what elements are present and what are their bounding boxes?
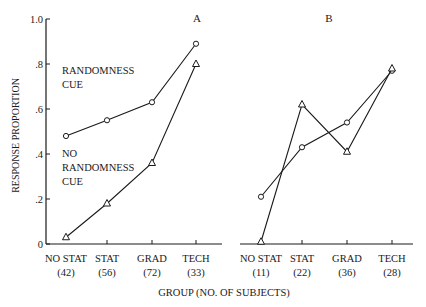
- circle-marker: [258, 194, 263, 199]
- y-tick-label: 0: [38, 239, 43, 250]
- x-tick-label: TECH: [378, 253, 406, 264]
- series-annotation: RANDOMNESS: [62, 65, 135, 76]
- circle-marker: [344, 120, 349, 125]
- triangle-marker: [299, 101, 306, 108]
- x-tick-label: NO STAT: [45, 253, 88, 264]
- y-tick-label: 1.0: [30, 14, 43, 25]
- x-tick-count: (28): [383, 267, 401, 279]
- panel-a: ANO STAT(42)STAT(56)GRAD(72)TECH(33)0.2.…: [10, 12, 222, 279]
- series-line: [66, 44, 196, 136]
- x-tick-label: STAT: [95, 253, 120, 264]
- circle-marker: [63, 133, 68, 138]
- y-tick-label: .2: [35, 194, 43, 205]
- x-tick-count: (72): [143, 267, 161, 279]
- y-tick-label: .4: [35, 149, 44, 160]
- triangle-marker: [389, 65, 396, 72]
- triangle-marker: [193, 60, 200, 67]
- x-tick-label: STAT: [290, 253, 315, 264]
- x-tick-label: GRAD: [332, 253, 362, 264]
- y-axis-label: RESPONSE PROPORTION: [10, 78, 21, 193]
- circle-marker: [104, 118, 109, 123]
- triangle-marker: [63, 233, 70, 240]
- panel-label: A: [193, 12, 201, 24]
- triangle-marker: [149, 159, 156, 166]
- x-tick-count: (42): [57, 267, 75, 279]
- x-tick-count: (36): [338, 267, 356, 279]
- panel-b: BNO STAT(11)STAT(22)GRAD(36)TECH(28): [240, 12, 413, 279]
- series-annotation: RANDOMNESS: [62, 162, 135, 173]
- x-tick-label: NO STAT: [240, 253, 283, 264]
- x-tick-label: TECH: [182, 253, 210, 264]
- chart-figure: ANO STAT(42)STAT(56)GRAD(72)TECH(33)0.2.…: [0, 0, 426, 307]
- x-tick-count: (33): [187, 267, 205, 279]
- series-line: [66, 64, 196, 237]
- series-annotation: NO: [62, 148, 78, 159]
- x-tick-count: (22): [293, 267, 311, 279]
- series-annotation: CUE: [62, 176, 83, 187]
- circle-marker: [299, 145, 304, 150]
- triangle-marker: [104, 200, 111, 207]
- series-line: [261, 69, 392, 242]
- series-annotation: CUE: [62, 79, 83, 90]
- x-tick-count: (11): [252, 267, 270, 279]
- x-tick-count: (56): [98, 267, 116, 279]
- triangle-marker: [258, 238, 265, 245]
- y-tick-label: .6: [35, 104, 43, 115]
- circle-marker: [193, 41, 198, 46]
- x-tick-label: GRAD: [137, 253, 167, 264]
- y-tick-label: .8: [35, 59, 43, 70]
- panel-label: B: [325, 12, 332, 24]
- x-axis-label: GROUP (NO. OF SUBJECTS): [158, 287, 290, 299]
- circle-marker: [149, 100, 154, 105]
